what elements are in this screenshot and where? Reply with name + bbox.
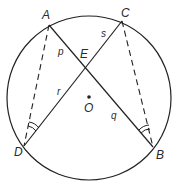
center-point (87, 95, 91, 99)
label-e: E (80, 47, 89, 61)
segment-label-q: q (111, 110, 117, 121)
label-c: C (121, 6, 130, 20)
circle-chord-diagram: A C D B E O p s r q (0, 0, 180, 189)
segment-label-s: s (101, 28, 106, 39)
segment-label-p: p (57, 46, 64, 57)
chord-ab (49, 25, 153, 147)
segment-label-r: r (57, 86, 61, 97)
label-d: D (14, 145, 23, 159)
label-b: B (156, 148, 164, 162)
label-a: A (41, 8, 50, 22)
label-o: O (84, 101, 93, 115)
